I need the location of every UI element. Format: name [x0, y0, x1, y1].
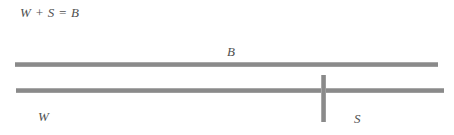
- equation-text: W + S = B: [20, 6, 79, 19]
- bar-top-total: [15, 62, 438, 67]
- bar-model-diagram: W + S = B B W S: [0, 0, 454, 135]
- bar-label-total-b: B: [227, 45, 235, 58]
- segment-divider-tick: [321, 75, 326, 122]
- bar-label-segment-w: W: [38, 110, 49, 123]
- bar-label-segment-s: S: [354, 112, 361, 125]
- bar-bottom-parts: [16, 88, 444, 93]
